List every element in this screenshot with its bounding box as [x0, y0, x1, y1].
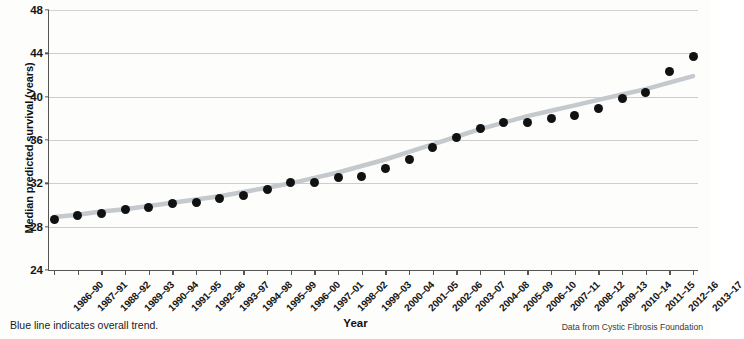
y-tick-mark: [45, 9, 49, 10]
x-tick-mark: [149, 270, 150, 275]
x-tick-mark: [433, 270, 434, 275]
x-tick-mark: [172, 270, 173, 275]
data-point: [570, 111, 579, 120]
data-point: [215, 194, 224, 203]
data-point: [547, 114, 556, 123]
data-point: [97, 209, 106, 218]
x-tick-mark: [101, 270, 102, 275]
gridline: [49, 53, 698, 54]
trend-note: Blue line indicates overall trend.: [10, 319, 158, 331]
data-point: [192, 198, 201, 207]
y-tick-label: 28: [30, 221, 43, 233]
x-tick-mark: [456, 270, 457, 275]
data-point: [476, 124, 485, 133]
gridline: [49, 227, 698, 228]
x-tick-mark: [622, 270, 623, 275]
data-point: [239, 191, 248, 200]
y-tick-mark: [45, 226, 49, 227]
y-tick-mark: [45, 53, 49, 54]
x-tick-mark: [504, 270, 505, 275]
x-tick-mark: [314, 270, 315, 275]
x-tick-mark: [385, 270, 386, 275]
x-tick-mark: [243, 270, 244, 275]
x-tick-mark: [480, 270, 481, 275]
y-tick-mark: [45, 183, 49, 184]
y-tick-label: 36: [30, 134, 43, 146]
gridline: [49, 97, 698, 98]
y-tick-mark: [45, 96, 49, 97]
data-source-note: Data from Cystic Fibrosis Foundation: [562, 322, 703, 332]
data-point: [144, 203, 153, 212]
x-tick-mark: [291, 270, 292, 275]
x-tick-mark: [669, 270, 670, 275]
data-point: [334, 173, 343, 182]
x-tick-mark: [598, 270, 599, 275]
data-point: [50, 215, 59, 224]
data-point: [263, 185, 272, 194]
x-tick-mark: [196, 270, 197, 275]
gridline: [49, 183, 698, 184]
data-point: [121, 205, 130, 214]
data-point: [310, 178, 319, 187]
gridline: [49, 10, 698, 11]
gridline: [49, 140, 698, 141]
x-tick-mark: [527, 270, 528, 275]
data-point: [689, 52, 698, 61]
y-tick-label: 24: [30, 264, 43, 276]
data-point: [381, 164, 390, 173]
data-point: [594, 104, 603, 113]
data-point: [641, 88, 650, 97]
y-tick-label: 32: [30, 177, 43, 189]
x-tick-mark: [220, 270, 221, 275]
y-tick-mark: [45, 269, 49, 270]
y-tick-mark: [45, 139, 49, 140]
x-tick-mark: [646, 270, 647, 275]
data-point: [405, 155, 414, 164]
y-tick-label: 40: [30, 91, 43, 103]
data-point: [73, 211, 82, 220]
data-point: [618, 94, 627, 103]
data-point: [523, 118, 532, 127]
plot-area: 24283236404448 1986–901987–911988–921989…: [48, 10, 698, 271]
x-tick-mark: [54, 270, 55, 275]
data-point: [428, 143, 437, 152]
data-point: [499, 118, 508, 127]
x-tick-mark: [267, 270, 268, 275]
x-tick-mark: [551, 270, 552, 275]
data-point: [286, 178, 295, 187]
y-axis-title: Median predicted survival (years): [23, 23, 35, 273]
data-point: [168, 199, 177, 208]
x-tick-mark: [409, 270, 410, 275]
x-tick-mark: [78, 270, 79, 275]
x-tick-mark: [125, 270, 126, 275]
x-tick-mark: [338, 270, 339, 275]
data-point: [357, 172, 366, 181]
y-tick-label: 44: [30, 47, 43, 59]
data-point: [665, 67, 674, 76]
x-tick-mark: [693, 270, 694, 275]
x-tick-mark: [362, 270, 363, 275]
y-tick-label: 48: [30, 4, 43, 16]
x-tick-mark: [575, 270, 576, 275]
